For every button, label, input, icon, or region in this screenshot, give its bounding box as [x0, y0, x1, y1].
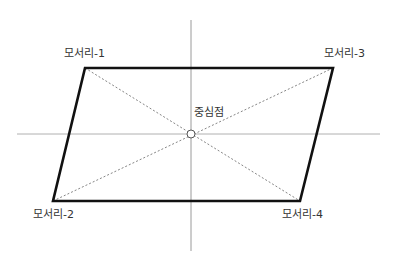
- corner-3-label: 모서리-3: [324, 48, 365, 60]
- center-point-label: 중심점: [194, 107, 224, 119]
- parallelogram-diagram: [0, 0, 396, 266]
- corner-4-label: 모서리-4: [282, 209, 323, 221]
- corner-1-label: 모서리-1: [64, 48, 105, 60]
- corner-2-label: 모서리-2: [33, 209, 74, 221]
- center-point-icon: [187, 130, 195, 138]
